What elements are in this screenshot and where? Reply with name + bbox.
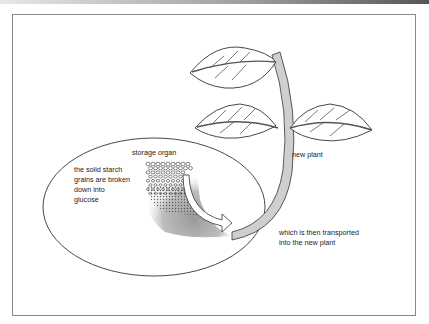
storage-organ-label: storage organ <box>132 149 176 158</box>
diagram-canvas <box>0 0 429 324</box>
new-plant-label: new plant <box>292 151 323 160</box>
leaf-top <box>190 47 276 88</box>
leaf-middle-right <box>290 104 372 141</box>
leaf-middle-left <box>195 104 278 138</box>
starch-label-line4: glucose <box>74 196 99 205</box>
starch-label-line3: down into <box>74 186 105 195</box>
starch-label-line2: grains are broken <box>74 176 130 185</box>
starch-label-line1: the solid starch <box>74 166 122 175</box>
transport-label-line1: which is then transported <box>279 229 359 238</box>
transport-label-line2: into the new plant <box>279 239 335 248</box>
